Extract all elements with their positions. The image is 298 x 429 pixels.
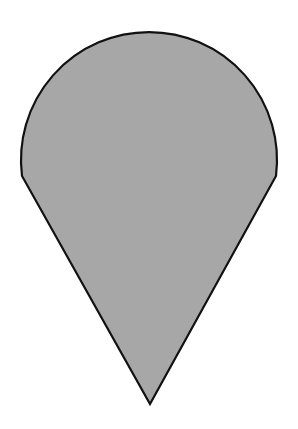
figure-canvas [0,0,298,429]
cone-shape-svg [0,0,298,429]
cone-shape [21,32,277,404]
